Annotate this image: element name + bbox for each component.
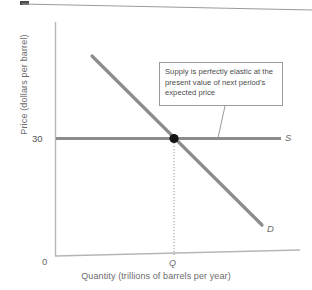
x-axis-title: Quantity (trillions of barrels per year) bbox=[0, 272, 312, 281]
supply-curve-label: S bbox=[285, 133, 291, 143]
origin-label: 0 bbox=[42, 257, 47, 267]
chart-canvas bbox=[0, 0, 312, 290]
supply-demand-figure: Price (dollars per barrel) Quantity (tri… bbox=[0, 0, 312, 290]
equilibrium-point bbox=[169, 134, 178, 143]
y-axis-title: Price (dollars per barrel) bbox=[20, 15, 29, 155]
y-axis-tick-label-30: 30 bbox=[32, 134, 43, 144]
supply-annotation-callout: Supply is perfectly elastic at the prese… bbox=[159, 62, 283, 106]
x-axis-line bbox=[55, 250, 300, 256]
supply-annotation-text: Supply is perfectly elastic at the prese… bbox=[165, 67, 277, 99]
callout-leader-line bbox=[218, 106, 225, 138]
demand-curve-label: D bbox=[267, 224, 274, 234]
top-rule bbox=[22, 4, 312, 10]
x-axis-tick-label-q: Q bbox=[169, 259, 176, 268]
